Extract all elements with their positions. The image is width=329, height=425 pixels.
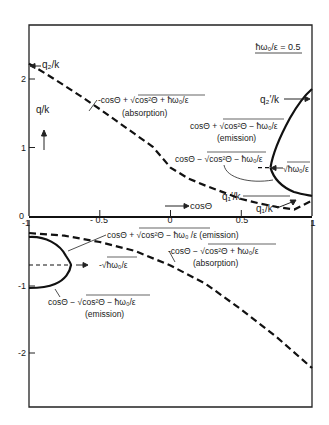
arrow-right-icon bbox=[284, 97, 310, 102]
q2prime-label: q₂′/k bbox=[260, 94, 280, 105]
y-axis-label: q/k bbox=[36, 104, 50, 115]
x-tick-label: 1 bbox=[310, 218, 315, 228]
emission-lower-plus-label: cosΘ + √cos²Θ − ħω₀ /ε (emission) bbox=[107, 230, 239, 240]
emission-left-lobe-curve bbox=[29, 237, 71, 288]
x-tick-label: - 0.5 bbox=[90, 215, 108, 225]
x-tick-label: 0 bbox=[167, 215, 172, 225]
pointer-line bbox=[55, 289, 60, 297]
arrow-right-icon bbox=[165, 204, 189, 209]
absorption-upper-tag: (absorption) bbox=[122, 108, 168, 118]
absorption-upper-label: -cosΘ + √cos²Θ + ħω₀/ε bbox=[98, 95, 189, 105]
x-axis-label: cosΘ bbox=[190, 200, 212, 211]
y-tick-label: 0 bbox=[19, 211, 24, 221]
arrow-left-icon bbox=[76, 263, 88, 268]
q1prime-label: q₁′/k bbox=[222, 191, 242, 202]
sqrt-positive-label: √ħω₀/ε bbox=[283, 164, 309, 174]
sqrt-negative-label: -√ħω₀/ε bbox=[99, 260, 128, 270]
y-tick-label: -1 bbox=[18, 281, 26, 291]
q1-label: q₁/k bbox=[256, 203, 274, 214]
absorption-lower-label: -cosΘ − √cos²Θ + ħω₀/ε bbox=[168, 246, 259, 256]
arrow-left-icon bbox=[271, 166, 283, 171]
q2-label: q₂/k bbox=[42, 59, 60, 70]
x-tick-label: 0.5 bbox=[236, 215, 249, 225]
absorption-lower-tag: (absorption) bbox=[193, 258, 239, 268]
emission-lower-minus-tag: (emission) bbox=[85, 309, 124, 319]
parameter-label: ħω₀/ε = 0.5 bbox=[255, 42, 300, 52]
arrow-up-icon bbox=[42, 130, 47, 150]
y-tick-label: -2 bbox=[18, 348, 26, 358]
y-tick-label: 2 bbox=[21, 74, 26, 84]
arrow-right-icon bbox=[277, 200, 296, 208]
y-tick-label: 1 bbox=[21, 143, 26, 153]
emission-upper-plus-label: cosΘ + √cos²Θ − ħω₀/ε bbox=[190, 121, 278, 131]
emission-lower-minus-label: cosΘ − √cos²Θ − ħω₀/ε bbox=[48, 297, 136, 307]
chart: -1 - 0.5 0 0.5 1 0 1 2 -1 -2 ħω₀/ε = 0.5… bbox=[0, 0, 329, 425]
y-ticks-lower bbox=[29, 286, 35, 353]
absorption-upper-curve bbox=[29, 64, 312, 210]
emission-upper-minus-label: cosΘ − √cos²Θ − ħω₀/ε bbox=[175, 154, 263, 164]
y-ticks-upper bbox=[29, 79, 35, 148]
emission-upper-plus-tag: (emission) bbox=[217, 133, 256, 143]
